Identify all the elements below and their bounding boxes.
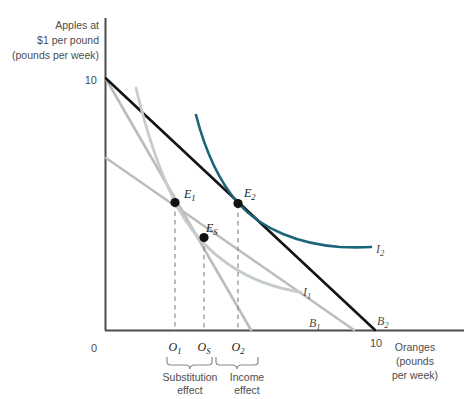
y-axis-title-line-1: Apples at [55,19,99,31]
x-axis-title: Oranges (pounds per week) [392,341,438,381]
label-es: ES [205,221,218,237]
effect-brackets-group [167,357,258,369]
label-o2: O2 [232,340,246,356]
label-b2: B2 [377,314,389,330]
label-os: OS [198,340,212,356]
income-effect-line-2: effect [234,384,260,396]
indifference-curve-i1 [136,88,300,292]
y-axis-title: Apples at $1 per pound (pounds per week) [12,19,99,61]
label-e1: E1 [183,187,196,203]
label-i2: I2 [375,242,385,258]
axes-group [105,18,464,331]
x-quantity-labels-group: O1 OS O2 [169,340,246,356]
figure-root: Apples at $1 per pound (pounds per week)… [0,0,475,399]
substitution-effect-line-1: Substitution [163,371,218,383]
y-axis-title-line-2: $1 per pound [37,34,99,46]
label-e2: E2 [243,186,256,202]
label-i1: I1 [302,285,311,301]
income-effect-line-1: Income [230,371,265,383]
x-axis-title-line-3: per week) [392,369,438,381]
x-tick-10: 10 [370,337,382,349]
label-b1: B1 [309,316,321,332]
economics-indifference-chart: Apples at $1 per pound (pounds per week)… [0,0,475,399]
point-e1 [170,198,179,207]
point-e2 [233,199,242,208]
substitution-effect-line-2: effect [177,384,203,396]
x-axis-title-line-2: (pounds [396,355,434,367]
curve-labels-group: I2 I1 B1 B2 [302,242,389,332]
y-tick-10: 10 [85,74,97,86]
y-tick-0-origin: 0 [91,342,97,354]
indifference-curve-i2 [196,115,371,247]
tick-labels-group: 10 0 10 [85,74,382,354]
label-o1: O1 [169,340,182,356]
y-axis-title-line-3: (pounds per week) [12,49,99,61]
equilibrium-points-group [170,198,242,242]
bracket-substitution [167,357,212,369]
x-axis-title-line-1: Oranges [395,341,435,353]
bracket-income [216,357,258,369]
effect-labels-group: Substitution effect Income effect [163,371,265,396]
